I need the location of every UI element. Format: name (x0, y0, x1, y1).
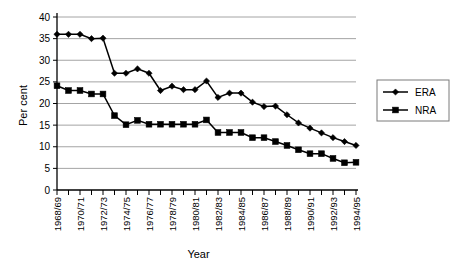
y-axis-title: Per cent (17, 85, 29, 126)
data-point-marker (100, 91, 106, 97)
series-group (54, 31, 359, 165)
y-tick-label: 15 (39, 120, 51, 131)
data-point-marker (307, 125, 313, 131)
data-point-marker (134, 66, 140, 72)
series-nra (54, 83, 359, 166)
data-point-marker (284, 143, 290, 149)
series-era (54, 31, 359, 148)
x-tick-label: 1986/87 (259, 197, 270, 231)
y-tick-label: 35 (39, 33, 51, 44)
data-point-marker (112, 113, 118, 119)
data-point-marker (330, 156, 336, 162)
x-axis-ticks-group (57, 190, 356, 195)
x-tick-label: 1984/85 (236, 197, 247, 231)
x-tick-label: 1994/95 (351, 197, 362, 231)
x-tick-label: 1988/89 (282, 197, 293, 231)
data-point-marker (54, 83, 60, 89)
data-point-marker (296, 147, 302, 153)
data-point-marker (341, 138, 347, 144)
data-point-marker (111, 70, 117, 76)
y-tick-label: 40 (39, 12, 51, 23)
data-point-marker (77, 88, 83, 94)
data-point-marker (353, 142, 359, 148)
data-point-marker (261, 103, 267, 109)
x-tick-label: 1974/75 (121, 197, 132, 231)
data-point-marker (330, 135, 336, 141)
data-point-marker (146, 121, 152, 127)
data-point-marker (226, 90, 232, 96)
y-tick-label: 5 (44, 163, 50, 174)
y-tick-label: 25 (39, 76, 51, 87)
data-point-marker (318, 130, 324, 136)
x-tick-label: 1982/83 (213, 197, 224, 231)
data-point-marker (123, 70, 129, 76)
data-point-marker (180, 87, 186, 93)
x-tick-label: 1992/93 (328, 197, 339, 231)
data-point-marker (227, 130, 233, 136)
legend: ERANRA (377, 80, 449, 121)
data-point-marker (353, 159, 359, 165)
legend-box (377, 80, 449, 121)
data-point-marker (342, 160, 348, 166)
data-point-marker (215, 130, 221, 136)
data-point-marker (100, 35, 106, 41)
data-point-marker (192, 121, 198, 127)
data-point-marker (204, 117, 210, 123)
data-point-marker (261, 135, 267, 141)
x-tick-label: 1972/73 (98, 197, 109, 231)
x-tick-label: 1968/69 (52, 197, 63, 231)
x-axis-title: Year (187, 248, 210, 260)
data-point-marker (123, 122, 129, 128)
x-tick-label: 1990/91 (305, 197, 316, 231)
y-tick-label: 20 (39, 98, 51, 109)
data-point-marker (169, 83, 175, 89)
data-point-marker (273, 139, 279, 145)
data-point-marker (88, 36, 94, 42)
x-tick-label: 1970/71 (75, 197, 86, 231)
data-point-marker (250, 135, 256, 141)
data-point-marker (65, 31, 71, 37)
data-point-marker (66, 88, 72, 94)
x-axis-labels-group: 1968/691970/711972/731974/751976/771978/… (52, 197, 362, 231)
data-point-marker (158, 121, 164, 127)
x-tick-label: 1980/81 (190, 197, 201, 231)
chart-container: 0510152025303540 1968/691970/711972/7319… (0, 0, 459, 267)
data-point-marker (181, 121, 187, 127)
data-point-marker (169, 121, 175, 127)
y-tick-label: 30 (39, 55, 51, 66)
line-chart: 0510152025303540 1968/691970/711972/7319… (0, 0, 459, 267)
data-point-marker (393, 107, 399, 113)
data-point-marker (238, 130, 244, 136)
data-point-marker (77, 31, 83, 37)
data-point-marker (319, 151, 325, 157)
data-point-marker (54, 31, 60, 37)
legend-label: NRA (415, 105, 436, 116)
y-axis-ticks-group: 0510152025303540 (39, 12, 57, 196)
x-tick-label: 1976/77 (144, 197, 155, 231)
data-point-marker (89, 91, 95, 97)
x-tick-label: 1978/79 (167, 197, 178, 231)
data-point-marker (135, 118, 141, 124)
y-tick-label: 10 (39, 141, 51, 152)
data-point-marker (307, 151, 313, 157)
y-tick-label: 0 (44, 185, 50, 196)
legend-label: ERA (415, 87, 436, 98)
